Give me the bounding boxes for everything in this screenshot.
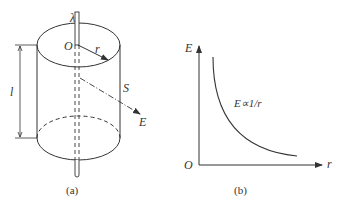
- figure-a: λ O r l S E (a): [10, 11, 147, 197]
- label-surface: S: [123, 81, 129, 95]
- cylinder-bottom-front: [37, 138, 120, 160]
- label-length: l: [10, 85, 14, 99]
- caption-a: (a): [66, 184, 79, 197]
- line-charge-rod-top: [75, 12, 79, 45]
- label-y-axis-E: E: [184, 41, 193, 55]
- label-lambda: λ: [69, 11, 75, 25]
- field-arrow: [80, 78, 140, 114]
- label-field: E: [138, 115, 147, 129]
- cylinder-bottom-back-dashed: [37, 116, 120, 138]
- label-x-axis-r: r: [327, 157, 332, 171]
- label-relation: E∝1/r: [233, 97, 262, 109]
- line-charge-rod-bottom: [75, 160, 79, 177]
- gauss-law-figure: λ O r l S E (a) E r O E∝1/r (b): [0, 0, 342, 209]
- label-origin-a: O: [64, 39, 73, 53]
- radius-arrow: [78, 45, 108, 60]
- label-radius: r: [95, 42, 100, 56]
- caption-b: (b): [234, 184, 247, 197]
- label-origin-b: O: [184, 158, 193, 172]
- figure-b: E r O E∝1/r (b): [184, 41, 332, 197]
